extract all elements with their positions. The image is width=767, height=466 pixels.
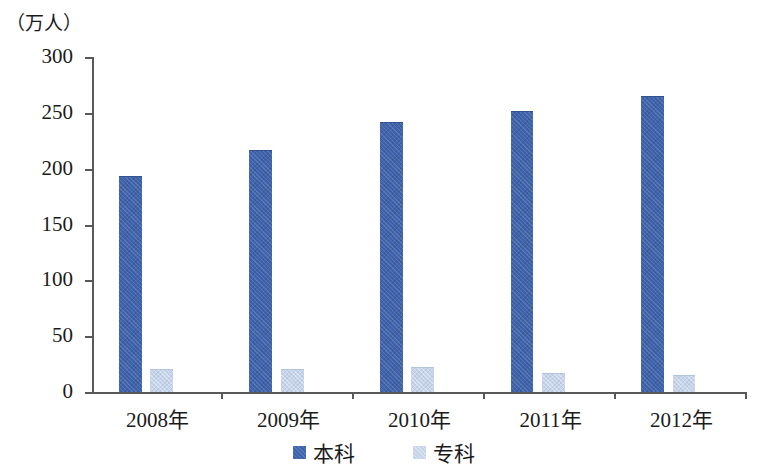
x-axis-ticks [92, 392, 747, 400]
bar-zhuanke-2008 [150, 369, 173, 392]
x-tick-cell-2008 [92, 392, 223, 400]
y-tick-label-50: 50 [52, 325, 73, 346]
y-tick-label-150: 150 [42, 214, 74, 235]
y-tick-0: 0 [85, 392, 92, 394]
bar-group-2008 [94, 57, 225, 392]
y-tick-300: 300 [85, 57, 92, 59]
legend-swatch-icon-benke [293, 446, 306, 459]
bar-zhuanke-2009 [281, 369, 304, 392]
bar-zhuanke-2011 [542, 373, 565, 392]
x-axis-label-2012: 2012年 [616, 403, 747, 433]
bar-benke-2009 [249, 150, 272, 392]
y-tick-label-300: 300 [42, 46, 74, 67]
legend-label-zhuanke: 专科 [433, 437, 475, 466]
y-tick-250: 250 [85, 113, 92, 115]
bar-groups [94, 57, 747, 392]
y-tick-100: 100 [85, 280, 92, 282]
x-axis-label-2009: 2009年 [223, 403, 354, 433]
bar-benke-2008 [119, 176, 142, 392]
legend-swatch-icon-zhuanke [413, 446, 426, 459]
bar-group-2011 [486, 57, 617, 392]
x-tick-cell-2009 [223, 392, 354, 400]
y-tick-50: 50 [85, 336, 92, 338]
bar-group-2012 [616, 57, 747, 392]
legend-item-zhuanke: 专科 [413, 437, 475, 466]
y-tick-label-200: 200 [42, 158, 74, 179]
x-axis-label-2010: 2010年 [354, 403, 485, 433]
x-tick-cell-2012 [616, 392, 747, 400]
x-axis-labels: 2008年 2009年 2010年 2011年 2012年 [92, 403, 747, 433]
x-axis-label-2008: 2008年 [92, 403, 223, 433]
bar-zhuanke-2012 [673, 375, 696, 392]
y-tick-label-0: 0 [63, 381, 74, 402]
bar-chart-figure: （万人） 300 250 200 150 100 50 0 [0, 0, 767, 466]
bar-benke-2011 [511, 111, 534, 392]
y-tick-200: 200 [85, 169, 92, 171]
y-tick-label-100: 100 [42, 269, 74, 290]
plot-area: 300 250 200 150 100 50 0 [92, 57, 747, 392]
bar-benke-2012 [641, 96, 664, 392]
x-tick-cell-2010 [354, 392, 485, 400]
y-axis-unit-label: （万人） [6, 8, 82, 35]
y-tick-150: 150 [85, 225, 92, 227]
x-axis-label-2011: 2011年 [485, 403, 616, 433]
legend-label-benke: 本科 [313, 437, 355, 466]
bar-group-2009 [225, 57, 356, 392]
x-tick-mark [745, 392, 747, 399]
bar-benke-2010 [380, 122, 403, 392]
y-tick-label-250: 250 [42, 102, 74, 123]
x-tick-cell-2011 [485, 392, 616, 400]
bar-zhuanke-2010 [411, 367, 434, 392]
legend-item-benke: 本科 [293, 437, 355, 466]
chart-legend: 本科 专科 [0, 437, 767, 466]
bar-group-2010 [355, 57, 486, 392]
